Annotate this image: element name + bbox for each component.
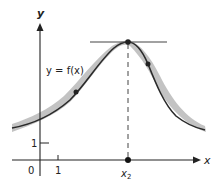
x-axis-label: x <box>203 154 211 167</box>
left-point-icon <box>74 90 79 95</box>
graph-figure: y x y = f(x) 0 1 1 x2 <box>0 0 216 189</box>
y-tick-label: 1 <box>31 138 37 149</box>
x-tick-label: 1 <box>55 165 61 176</box>
x2-label: x2 <box>120 168 131 181</box>
x-axis-arrow-icon <box>193 157 201 164</box>
max-point-icon <box>125 39 131 45</box>
function-label: y = f(x) <box>46 65 84 76</box>
x2-point-icon <box>125 157 131 163</box>
origin-label: 0 <box>28 165 34 176</box>
y-axis-arrow-icon <box>37 23 44 31</box>
y-axis-label: y <box>37 7 45 20</box>
right-point-icon <box>146 62 151 67</box>
